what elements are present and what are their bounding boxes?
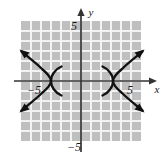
y-axis-label: y	[88, 6, 94, 18]
hyperbola-figure: −5 5 5 −5 x y	[0, 0, 164, 158]
y-tick-label-neg5: −5	[67, 140, 81, 154]
x-axis-label: x	[154, 83, 160, 95]
y-tick-label-5: 5	[71, 19, 77, 33]
x-tick-label-5: 5	[127, 83, 133, 97]
y-axis-arrow-icon	[77, 8, 84, 16]
x-tick-label-neg5: −5	[27, 83, 41, 97]
graph-canvas: −5 5 5 −5 x y	[0, 0, 164, 158]
